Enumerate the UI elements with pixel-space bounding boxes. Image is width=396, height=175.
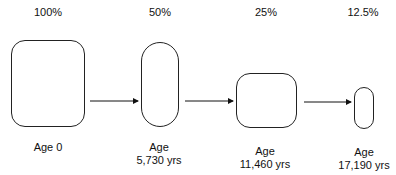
- age-label-2: Age 5,730 yrs: [119, 141, 199, 167]
- age-label-4: Age 17,190 yrs: [324, 146, 396, 172]
- age-label-3: Age 11,460 yrs: [225, 145, 305, 171]
- age-label-1: Age 0: [8, 141, 88, 154]
